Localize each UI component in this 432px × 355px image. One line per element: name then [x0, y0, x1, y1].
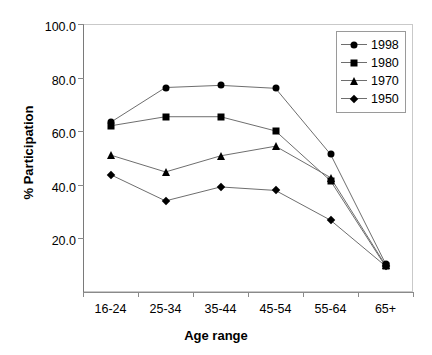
chart-container: 100.080.060.040.020.0 16-2425-3435-4445-… [0, 0, 432, 355]
data-point-marker [272, 85, 279, 92]
legend-marker-icon [341, 74, 367, 88]
data-point-marker [327, 151, 334, 158]
data-point-marker [272, 142, 280, 150]
legend-item-label: 1970 [367, 74, 399, 88]
legend-item-label: 1998 [367, 38, 399, 52]
data-point-marker [382, 261, 390, 269]
data-point-marker [107, 119, 114, 126]
data-point-marker [217, 82, 224, 89]
data-point-marker [107, 151, 115, 159]
data-point-marker [217, 113, 224, 120]
legend-item-1980[interactable]: 1980 [341, 54, 399, 72]
data-point-marker [162, 168, 170, 176]
data-point-marker [106, 170, 114, 178]
legend-marker-icon [341, 56, 367, 70]
data-point-marker [382, 263, 389, 270]
data-point-marker [216, 183, 224, 191]
data-point-marker [382, 260, 389, 267]
data-point-marker [381, 262, 389, 270]
data-point-marker [327, 177, 334, 184]
data-point-marker [272, 127, 279, 134]
legend-item-1998[interactable]: 1998 [341, 36, 399, 54]
data-point-marker [217, 152, 225, 160]
legend-marker-icon [341, 92, 367, 106]
legend-item-1950[interactable]: 1950 [341, 90, 399, 108]
data-point-marker [162, 84, 169, 91]
data-point-marker [271, 186, 279, 194]
chart-legend: 1998198019701950 [336, 31, 406, 113]
data-point-marker [326, 216, 334, 224]
data-point-marker [162, 113, 169, 120]
y-axis-title: % Participation [21, 63, 36, 243]
legend-item-label: 1950 [367, 92, 399, 106]
x-axis-title: Age range [0, 328, 432, 343]
legend-item-1970[interactable]: 1970 [341, 72, 399, 90]
legend-marker-icon [341, 38, 367, 52]
data-point-marker [327, 174, 335, 182]
data-point-marker [161, 197, 169, 205]
legend-item-label: 1980 [367, 56, 399, 70]
data-point-marker [107, 122, 114, 129]
